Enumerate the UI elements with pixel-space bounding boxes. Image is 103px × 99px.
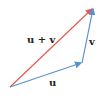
vector-u [10,63,81,87]
label-v: v [88,36,96,47]
label-u-plus-v: u + v [27,34,57,45]
label-u: u [49,77,56,88]
vector-u-plus-v [10,9,92,87]
vector-addition-diagram: u + v v u [0,0,103,99]
